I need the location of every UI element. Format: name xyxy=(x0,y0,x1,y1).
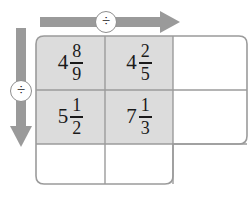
numerator: 2 xyxy=(140,42,151,61)
grid-cell-r1c0: 5 1 2 xyxy=(36,90,105,144)
grid-cell-r0c0: 4 8 9 xyxy=(36,36,105,90)
whole-part: 4 xyxy=(126,52,137,73)
numerator: 1 xyxy=(140,96,151,115)
grid-cell-r2c0[interactable] xyxy=(36,144,105,184)
fraction-part: 8 9 xyxy=(70,42,83,83)
fraction-part: 1 2 xyxy=(70,96,83,137)
grid-cell-r0c1: 4 2 5 xyxy=(105,36,173,90)
division-sign-icon-top: ÷ xyxy=(95,11,117,33)
numerator: 8 xyxy=(71,42,82,61)
whole-part: 5 xyxy=(58,106,69,127)
whole-part: 4 xyxy=(58,52,69,73)
mixed-number-r1c1: 7 1 3 xyxy=(126,96,152,137)
grid-cell-r1c2[interactable] xyxy=(173,90,247,144)
division-sign-icon-left: ÷ xyxy=(10,80,32,102)
denominator: 5 xyxy=(140,65,151,84)
denominator: 3 xyxy=(140,119,151,138)
number-grid: 4 8 9 4 2 5 5 xyxy=(36,36,210,184)
mixed-number-r1c0: 5 1 2 xyxy=(58,96,84,137)
whole-part: 7 xyxy=(126,106,137,127)
numerator: 1 xyxy=(71,96,82,115)
grid-cell-r1c1: 7 1 3 xyxy=(105,90,173,144)
mixed-number-r0c1: 4 2 5 xyxy=(126,42,152,83)
denominator: 9 xyxy=(71,65,82,84)
mixed-number-r0c0: 4 8 9 xyxy=(58,42,84,83)
grid-cell-r0c2[interactable] xyxy=(173,36,247,90)
diagram-canvas: ÷ ÷ 4 8 9 xyxy=(0,0,250,200)
fraction-part: 1 3 xyxy=(139,96,152,137)
grid-cell-r2c1[interactable] xyxy=(105,144,173,184)
fraction-part: 2 5 xyxy=(139,42,152,83)
denominator: 2 xyxy=(71,119,82,138)
